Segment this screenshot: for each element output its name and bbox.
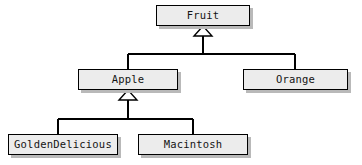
class-name-apple: Apple (112, 74, 145, 85)
uml-class-diagram: Fruit Apple Orange GoldenDelicious Macin… (0, 0, 362, 165)
generalization-arrowhead-apple-children (119, 90, 137, 100)
class-box-apple[interactable]: Apple (78, 69, 178, 90)
class-box-fruit[interactable]: Fruit (156, 5, 250, 26)
class-name-fruit: Fruit (187, 10, 220, 21)
class-box-orange[interactable]: Orange (243, 69, 348, 90)
class-box-goldendelicious[interactable]: GoldenDelicious (8, 134, 118, 155)
class-box-macintosh[interactable]: Macintosh (138, 134, 248, 155)
class-name-orange: Orange (276, 74, 315, 85)
class-name-goldendelicious: GoldenDelicious (14, 139, 112, 150)
generalization-arrowhead-fruit-children (194, 26, 212, 36)
class-name-macintosh: Macintosh (164, 139, 223, 150)
